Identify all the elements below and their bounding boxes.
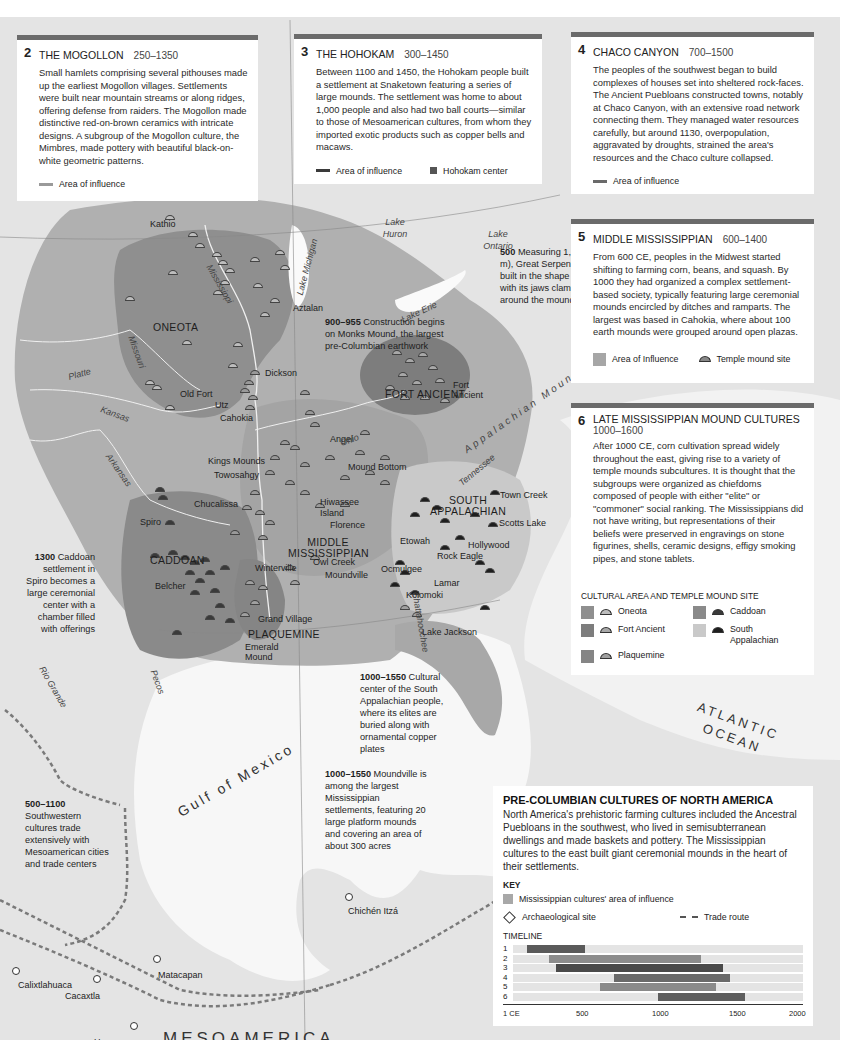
- area-swatch: [593, 353, 606, 366]
- timeline-row: 5: [503, 983, 803, 991]
- temple-mound-icon: [258, 585, 268, 590]
- temple-mound-icon: [244, 380, 254, 385]
- site-label: Town Creek: [500, 491, 548, 500]
- temple-mound-icon: [325, 455, 335, 460]
- temple-mound-icon: [255, 510, 265, 515]
- panel-middle-mississippian: 5 MIDDLE MISSISSIPPIAN600–1400 From 600 …: [571, 219, 814, 383]
- panel-number: 6: [578, 413, 585, 428]
- site-label: Winterville: [255, 564, 297, 573]
- center-marker-icon: [430, 167, 437, 174]
- legend-label: Area of influence: [613, 176, 679, 186]
- panel-dates: 1000–1600: [593, 425, 804, 436]
- temple-mound-icon: [172, 630, 182, 635]
- timeline-row-label: 4: [503, 973, 507, 982]
- site-label: Aztalan: [293, 304, 323, 313]
- site-label: Mound Bottom: [348, 463, 407, 472]
- timeline-bar: [527, 945, 585, 953]
- temple-mound-icon: [290, 580, 300, 585]
- area-swatch: [581, 606, 594, 619]
- timeline-heading: TIMELINE: [503, 931, 803, 941]
- temple-mound-icon: [435, 378, 445, 383]
- panel-late-mississippian: 6 LATE MISSISSIPPIAN MOUND CULTURES 1000…: [571, 403, 814, 675]
- temple-mound-icon: [488, 522, 498, 527]
- panel-mogollon: 2 THE MOGOLLON250–1350 Small hamlets com…: [17, 35, 258, 201]
- panel-title: THE MOGOLLON: [39, 49, 124, 61]
- panel-body: The peoples of the southwest began to bu…: [593, 64, 804, 164]
- temple-mound-icon: [225, 268, 235, 273]
- site-label: Moundville: [325, 571, 368, 580]
- archaeological-site-icon: [345, 893, 353, 901]
- legend-label: Area of influence: [59, 179, 125, 189]
- site-label: Scotts Lake: [499, 519, 546, 528]
- temple-mound-icon: [440, 518, 450, 523]
- panel-body: After 1000 CE, corn cultivation spread w…: [593, 440, 804, 565]
- timeline-bar: [549, 955, 701, 963]
- legend-label: South Appalachian: [730, 624, 800, 645]
- temple-mound-icon: [250, 600, 260, 605]
- panel-number: 4: [578, 42, 585, 57]
- temple-mound-icon: [145, 380, 155, 385]
- site-label: Kathio: [150, 220, 176, 229]
- site-label: Towosahgy: [214, 471, 259, 480]
- temple-mound-icon: [270, 298, 280, 303]
- temple-mound-icon: [225, 618, 235, 623]
- temple-mound-icon: [300, 390, 310, 395]
- temple-mound-icon: [290, 445, 300, 450]
- key-panel: PRE-COLUMBIAN CULTURES OF NORTH AMERICA …: [493, 786, 813, 1026]
- temple-mound-icon: [233, 342, 243, 347]
- temple-mound-icon: [245, 580, 255, 585]
- site-label: Grand Village: [258, 615, 312, 624]
- temple-mound-icon: [250, 370, 260, 375]
- culture-legend-item: South Appalachian: [693, 624, 803, 645]
- axis-tick: 1 CE: [503, 1009, 520, 1018]
- culture-legend-item: Caddoan: [693, 606, 803, 619]
- temple-mound-icon: [600, 609, 612, 615]
- temple-mound-icon: [265, 520, 275, 525]
- diamond-site-icon: [503, 911, 516, 924]
- temple-mound-icon: [215, 603, 225, 608]
- legend-label: Trade route: [704, 912, 749, 922]
- site-label: Cahokia: [220, 414, 253, 423]
- site-label: Utz: [215, 401, 229, 410]
- temple-mound-icon: [253, 283, 263, 288]
- temple-mound-icon: [158, 495, 168, 500]
- region-middle-mississippian: MIDDLE MISSISSIPPIAN: [288, 537, 368, 559]
- temple-mound-icon: [300, 490, 310, 495]
- culture-legend: OneotaCaddoanFort AncientSouth Appalachi…: [581, 606, 804, 663]
- temple-mound-icon: [212, 252, 222, 257]
- culture-legend-item: Fort Ancient: [581, 624, 693, 645]
- timeline-row: 1: [503, 945, 803, 953]
- archaeological-site-icon: [93, 975, 101, 983]
- legend-row: Area of influence Hohokam center: [316, 166, 532, 176]
- annotation-monks-mound: 900–955 Construction begins on Monks Mou…: [325, 317, 445, 353]
- temple-mound-icon: [270, 455, 280, 460]
- panel-dates: 700–1500: [689, 47, 734, 58]
- key-panel-body: North America's prehistoric farming cult…: [503, 808, 803, 873]
- temple-mound-icon: [250, 257, 260, 262]
- site-label: Lamar: [434, 579, 460, 588]
- region-oneota: ONEOTA: [153, 322, 198, 333]
- axis-tick: 1000: [652, 1009, 669, 1018]
- legend-label: Hohokam center: [443, 166, 508, 176]
- temple-mound-icon: [300, 462, 310, 467]
- panel-title: THE HOHOKAM: [316, 48, 394, 60]
- panel-number: 3: [301, 44, 308, 59]
- temple-mound-icon: [190, 590, 200, 595]
- temple-mound-icon: [242, 505, 252, 510]
- timeline-axis: 1 CE 500 1000 1500 2000: [503, 1004, 803, 1019]
- temple-mound-icon: [712, 609, 724, 615]
- legend-label: Archaeological site: [522, 912, 674, 922]
- region-plaquemine: PLAQUEMINE: [248, 629, 320, 640]
- panel-body: Between 1100 and 1450, the Hohokam peopl…: [316, 66, 532, 154]
- temple-mound-icon: [185, 570, 195, 575]
- site-label: Chichén Itzá: [348, 907, 398, 916]
- temple-mound-icon: [125, 296, 135, 301]
- annotation-spiro: 1300 Caddoan settlement in Spiro becomes…: [20, 552, 95, 636]
- temple-mound-icon: [168, 270, 178, 275]
- temple-mound-icon: [265, 470, 275, 475]
- temple-mound-icon: [285, 480, 295, 485]
- archaeological-site-icon: [153, 955, 161, 963]
- temple-mound-icon: [355, 450, 365, 455]
- temple-mound-icon: [248, 395, 258, 400]
- panel-number: 5: [578, 229, 585, 244]
